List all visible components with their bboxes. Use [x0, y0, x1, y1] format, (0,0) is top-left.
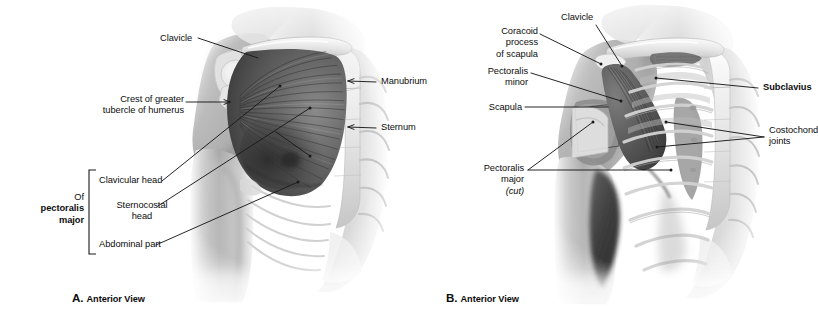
label-a-pectoralis-major-group: Of pectoralis major — [8, 192, 84, 226]
label-b-clavicle: Clavicle — [561, 12, 593, 23]
caption-b-letter: B. — [446, 291, 458, 304]
anatomy-figure: Clavicle Crest of greater tubercle of hu… — [0, 0, 818, 315]
label-b-costochondral-joints: Costochondral joints — [769, 125, 818, 148]
label-a-crest-of-greater-tubercle: Crest of greater tubercle of humerus — [16, 94, 184, 117]
pectoralis-major-bracket — [89, 170, 96, 254]
panel-b-artwork — [500, 0, 790, 315]
caption-a-text: Anterior View — [87, 294, 145, 304]
anatomy-artwork — [0, 0, 818, 315]
label-a-abdominal-part: Abdominal part — [99, 239, 161, 250]
caption-b-text: Anterior View — [461, 294, 519, 304]
label-b-scapula: Scapula — [452, 102, 522, 113]
caption-a-letter: A. — [72, 291, 84, 304]
label-a-of: Of — [8, 192, 84, 203]
label-a-clavicular-head: Clavicular head — [99, 175, 162, 186]
label-a-sternum: Sternum — [381, 122, 416, 133]
panel-a-artwork — [140, 0, 410, 315]
label-a-sternocostal-head: Sternocostal head — [99, 200, 185, 223]
label-a-clavicle: Clavicle — [160, 33, 192, 44]
label-b-pectoralis-minor: Pectoralis minor — [452, 66, 528, 89]
caption-panel-a: A.Anterior View — [62, 281, 145, 314]
label-a-major: major — [8, 215, 84, 226]
label-b-pectoralis-major-cut: Pectoralis major (cut) — [452, 163, 524, 197]
label-b-subclavius: Subclavius — [763, 82, 812, 93]
label-a-manubrium: Manubrium — [381, 76, 427, 87]
label-b-coracoid-process: Coracoid process of scapula — [452, 26, 538, 60]
label-b-cut-text: (cut) — [452, 186, 524, 197]
label-b-pectoralis-major-text: Pectoralis major — [452, 163, 524, 186]
label-a-pectoralis: pectoralis — [8, 203, 84, 214]
caption-panel-b: B.Anterior View — [436, 281, 519, 314]
